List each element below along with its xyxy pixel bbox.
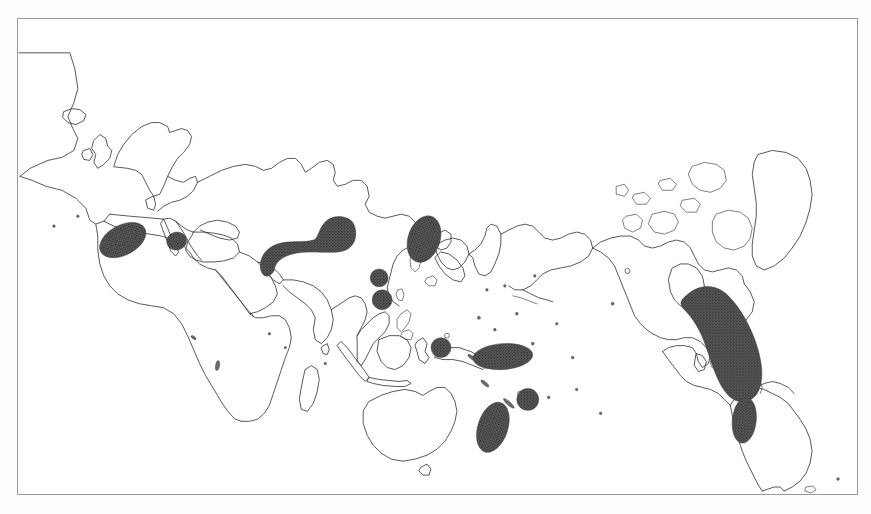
island-ring-pacific: [625, 268, 630, 273]
region-himalaya-central-asia-arc: [260, 217, 356, 277]
region-fiji: [517, 388, 539, 410]
coastline-taiwan: [396, 289, 404, 301]
island-dot-pacific-9: [486, 289, 489, 292]
coastline-alaska: [501, 224, 593, 290]
island-dot-atlantic-1: [53, 225, 56, 228]
island-dot-indian-3: [324, 362, 327, 365]
coastline-gulf-florida: [652, 334, 710, 368]
island-dot-pacific-2: [493, 328, 496, 331]
island-dot-pacific-3: [515, 312, 518, 315]
coastline-java: [367, 377, 411, 386]
coastline-sri-lanka: [321, 344, 329, 355]
coastline-north-america-west: [593, 248, 653, 334]
coastline-iceland: [63, 109, 86, 125]
coastline-sumatra: [337, 342, 369, 382]
coastline-sulawesi: [415, 338, 429, 364]
coastline-kyushu: [425, 276, 437, 286]
shaded-regions-layer: [94, 211, 762, 456]
island-dot-indian-1: [268, 332, 271, 335]
island-dot-pacific-8: [533, 275, 536, 278]
coastline-ireland: [82, 148, 93, 160]
coastline-yucatan: [694, 354, 706, 372]
coastline-kamchatka: [469, 224, 501, 276]
region-solomon-vanuatu: [472, 342, 534, 372]
coastline-falklands: [805, 486, 816, 493]
island-dot-pacific-1: [477, 316, 480, 319]
coastline-australia: [363, 387, 457, 461]
coastline-banks-island: [623, 214, 643, 232]
coastline-canada-arctic: [593, 236, 745, 284]
island-dot-south-pacific-1: [599, 412, 602, 415]
coastline-madagascar: [299, 366, 319, 412]
region-taiwan: [370, 269, 388, 287]
island-vanuatu-chain: [480, 379, 490, 388]
region-central-andes-chile: [730, 396, 759, 444]
island-ring-caroline: [445, 333, 450, 338]
coastline-west-europe: [19, 53, 78, 176]
coastline-philippines: [397, 310, 411, 332]
island-dot-south-atlantic: [837, 478, 840, 481]
coastline-arctic-islet-2: [633, 192, 651, 204]
island-east-africa-lake: [215, 360, 221, 370]
coastline-arctic-islet-1: [658, 178, 676, 190]
coastline-aleutians: [513, 296, 537, 304]
figure-container: [0, 0, 871, 514]
island-dot-pacific-4: [531, 342, 534, 345]
island-dot-pacific-5: [555, 322, 558, 325]
island-dot-hawaii: [611, 302, 614, 305]
map-frame: [17, 18, 858, 495]
coastline-arctic-islet-4: [617, 184, 629, 196]
island-dot-indian-2: [284, 346, 286, 348]
coastline-greenland: [752, 150, 812, 269]
coastline-victoria-island: [648, 211, 678, 234]
island-comoros: [190, 335, 197, 341]
region-new-guinea: [431, 338, 451, 358]
coastline-black-sea: [194, 220, 240, 240]
coastline-jutland: [146, 196, 156, 210]
coastline-tasmania: [419, 464, 431, 475]
island-dot-pacific-10: [547, 396, 550, 399]
region-new-zealand: [471, 398, 515, 456]
coastline-baltic-north-europe: [158, 176, 198, 211]
island-dot-pacific-7: [504, 285, 507, 288]
coastlines-layer: [19, 53, 816, 493]
coastline-great-britain: [92, 135, 112, 169]
island-dot-atlantic-2: [77, 215, 80, 218]
region-philippines: [372, 290, 392, 310]
coastline-philippines-south: [401, 330, 413, 340]
coastline-iberia-northwest-africa: [20, 176, 110, 224]
coastline-borneo: [377, 336, 411, 370]
coastline-patagonia-tip: [762, 487, 784, 491]
coastline-baffin-island: [712, 210, 752, 250]
coastline-arctic-islet-3: [680, 198, 700, 212]
region-japan-korea: [401, 211, 446, 266]
coastline-indochina: [357, 312, 389, 366]
coastline-scandinavia: [114, 123, 192, 197]
coastline-africa-east: [216, 270, 292, 421]
island-dot-pacific-11: [575, 388, 578, 391]
coastline-ellesmere: [688, 162, 726, 192]
region-western-mediterranean: [94, 215, 152, 265]
island-dot-pacific-6: [571, 356, 574, 359]
world-map-svg: [18, 19, 857, 494]
